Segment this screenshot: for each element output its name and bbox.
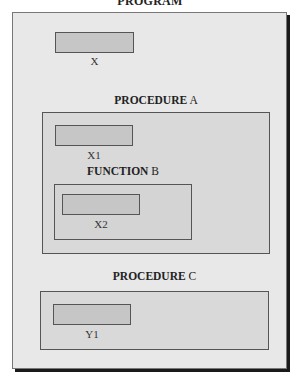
variable-y1-box [53,304,131,325]
variable-x-box [55,32,134,53]
procedure-a-label: PROCEDURE A [42,94,270,106]
variable-x1-label: X1 [55,149,133,161]
variable-x2-label: X2 [62,218,140,230]
procedure-a-keyword: PROCEDURE [114,94,187,106]
function-b-label: FUNCTION B [54,165,192,177]
variable-x-label: X [55,55,134,67]
program-title: PROGRAM [0,0,300,9]
function-b-name: B [151,165,159,177]
procedure-c-label: PROCEDURE C [40,270,269,282]
procedure-c-keyword: PROCEDURE [113,270,186,282]
variable-x1-box [55,125,133,146]
variable-y1-label: Y1 [53,328,131,340]
procedure-a-name: A [189,94,197,106]
variable-x2-box [62,194,140,215]
procedure-c-name: C [189,270,197,282]
function-b-keyword: FUNCTION [87,165,148,177]
